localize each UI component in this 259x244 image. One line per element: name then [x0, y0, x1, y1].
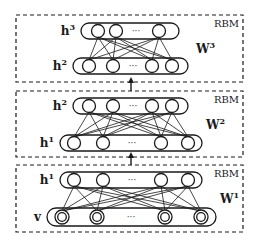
hidden-layer-top: ···h3	[61, 22, 179, 39]
neuron-node	[182, 174, 195, 187]
weight-connections	[89, 37, 172, 60]
ellipsis: ···	[132, 26, 141, 36]
hidden-layer-top: ···h1	[40, 171, 202, 188]
layer-label: v	[33, 210, 42, 224]
neuron-node	[83, 60, 96, 73]
neuron-node	[182, 137, 195, 150]
ellipsis: ···	[129, 61, 138, 71]
hidden-layer-bottom: ···h1	[40, 134, 202, 151]
neuron-node	[83, 100, 96, 113]
layer-label: h3	[61, 22, 76, 38]
neuron-node	[107, 60, 120, 73]
ellipsis: ···	[129, 101, 138, 111]
ellipsis: ···	[127, 212, 136, 222]
neuron-node	[97, 137, 110, 150]
rbm-label: RBM	[214, 18, 239, 29]
hidden-layer-top: ···h2	[53, 97, 188, 114]
neuron-node	[107, 100, 120, 113]
neuron-node	[97, 174, 110, 187]
neuron-node	[92, 25, 105, 38]
weight-label: W3	[195, 40, 215, 56]
rbm-block-2: RBM···h2···h1W2	[16, 91, 243, 157]
neuron-node	[146, 60, 159, 73]
ellipsis: ···	[128, 138, 137, 148]
layer-label: h2	[53, 97, 67, 113]
weight-label: W1	[219, 190, 239, 206]
weight-connections	[62, 186, 201, 211]
layer-label: h1	[40, 134, 54, 150]
rbm-block-1: RBM···h1···vW1	[16, 165, 243, 232]
neuron-node	[146, 100, 159, 113]
stacked-rbm-diagram: RBM···h3···h2W3RBM···h2···h1W2RBM···h1··…	[0, 0, 259, 244]
neuron-node	[166, 60, 179, 73]
layer-label: h1	[40, 171, 54, 187]
neuron-node	[166, 100, 179, 113]
neuron-node	[155, 137, 168, 150]
rbm-block-3: RBM···h3···h2W3	[16, 15, 243, 82]
weight-label: W2	[205, 116, 225, 132]
up-arrow-icon	[128, 77, 134, 91]
rbm-label: RBM	[214, 94, 239, 105]
ellipsis: ···	[128, 175, 137, 185]
up-arrow-icon	[128, 152, 134, 165]
hidden-layer-bottom: ···h2	[53, 57, 188, 74]
neuron-node	[68, 174, 81, 187]
neuron-node	[68, 137, 81, 150]
visible-layer: ···v	[33, 208, 216, 226]
neuron-node	[155, 174, 168, 187]
neuron-node	[110, 25, 123, 38]
rbm-label: RBM	[214, 168, 239, 179]
neuron-node	[153, 25, 166, 38]
weight-connections	[74, 112, 188, 137]
layer-label: h2	[53, 57, 67, 73]
